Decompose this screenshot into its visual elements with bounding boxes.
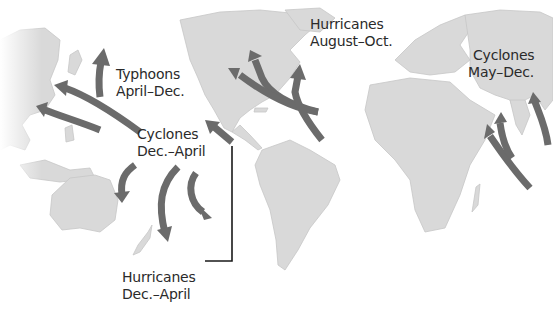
label-hurricanes-sp-line1: Hurricanes: [122, 269, 196, 286]
label-cyclones-indian: Cyclones May–Dec.: [468, 47, 534, 81]
label-typhoons-line2: April–Dec.: [116, 83, 185, 100]
label-cyclones-south-pacific: Cyclones Dec.–April: [137, 126, 206, 160]
label-hurricanes-south-pacific: Hurricanes Dec.–April: [122, 269, 196, 303]
south-pacific-tracks: [114, 165, 212, 242]
leader-line: [205, 146, 232, 261]
south-america-land: [255, 140, 340, 270]
label-hurricanes-atl-line1: Hurricanes: [310, 16, 392, 33]
madagascar-land: [472, 184, 480, 212]
label-cyclones-sp-line1: Cyclones: [137, 126, 206, 143]
europe-land: [395, 15, 470, 75]
caribbean-land: [254, 108, 268, 112]
new-zealand-land: [133, 225, 152, 255]
label-cyclones-io-line2: May–Dec.: [468, 64, 534, 81]
label-hurricanes-sp-line2: Dec.–April: [122, 286, 196, 303]
label-cyclones-io-line1: Cyclones: [468, 47, 534, 64]
central-america-land: [232, 125, 262, 150]
label-hurricanes-atl-line2: August–Oct.: [310, 33, 392, 50]
india-land: [510, 100, 530, 135]
label-hurricanes-atlantic: Hurricanes August–Oct.: [310, 16, 392, 50]
label-cyclones-sp-line2: Dec.–April: [137, 143, 206, 160]
label-typhoons-line1: Typhoons: [116, 66, 185, 83]
africa-land: [365, 78, 495, 232]
label-typhoons: Typhoons April–Dec.: [116, 66, 185, 100]
